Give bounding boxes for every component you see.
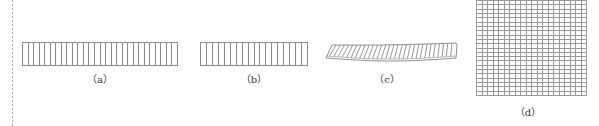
- panel-c-hatch-line: [394, 45, 398, 59]
- panel-c-hatch-line: [446, 43, 447, 56]
- panel-c-hatch-line: [425, 44, 427, 58]
- panel-c-hatch-line: [399, 45, 403, 59]
- panel-d-label: （d）: [515, 107, 541, 118]
- panel-d-mesh-grid: [476, 0, 587, 96]
- panel-c-hatch-line: [412, 44, 415, 58]
- panel-c-hatch-line: [438, 44, 440, 58]
- panel-c-bottom-edge: [326, 58, 456, 61]
- panel-b-label: （b）: [241, 74, 267, 85]
- panel-c-hatch-line: [451, 43, 452, 56]
- panel-c-hatch-line: [420, 44, 423, 58]
- panel-c-hatch-line: [433, 44, 435, 58]
- panel-c-hatch-line: [416, 44, 419, 58]
- panel-c-hatch-line: [442, 43, 444, 57]
- panel-c-hatch-line: [429, 44, 431, 58]
- figure-canvas: （a） （b） （c） （d）: [0, 0, 599, 126]
- panel-c-hatch-line: [386, 45, 390, 59]
- panel-c-hatch-line: [377, 45, 382, 59]
- panel-a-label: （a）: [87, 74, 113, 85]
- panel-c-right-end: [456, 43, 457, 58]
- panel-c-deformed-strip: [326, 43, 457, 61]
- panel-c-hatch-line: [368, 45, 373, 59]
- panel-c-hatch-line: [390, 45, 394, 59]
- panel-c-hatch-line: [381, 45, 385, 59]
- panel-c-hatch-line: [403, 45, 406, 59]
- panel-b-strip: [201, 43, 308, 66]
- panel-c-hatch-line: [373, 45, 378, 59]
- panel-c-top-edge: [332, 43, 456, 45]
- panel-c-label: （c）: [374, 74, 400, 85]
- panel-c-hatch-line: [407, 45, 410, 59]
- panel-a-strip: [23, 43, 178, 66]
